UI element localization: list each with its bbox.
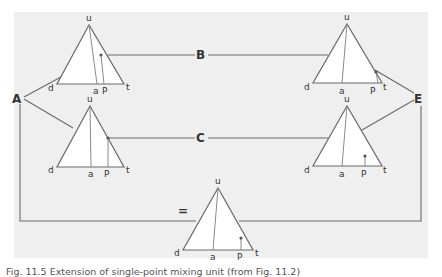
- mixing-unit-diagram: u d t a P u d t a P u d t a P u d t: [0, 0, 442, 277]
- node-E: E: [414, 92, 422, 106]
- label-a: a: [210, 252, 216, 262]
- label-u: u: [86, 13, 92, 23]
- label-a: a: [88, 169, 94, 179]
- label-t: t: [255, 248, 259, 258]
- label-t: t: [383, 165, 387, 175]
- point-p-dot: [239, 236, 242, 239]
- label-t: t: [126, 82, 130, 92]
- figure-caption: Fig. 11.5 Extension of single-point mixi…: [6, 266, 300, 277]
- label-u: u: [215, 176, 221, 186]
- label-d: d: [304, 165, 310, 175]
- label-p: P: [361, 169, 367, 179]
- label-u: u: [344, 94, 350, 104]
- point-p-dot: [99, 53, 102, 56]
- label-a: a: [93, 86, 99, 96]
- label-u: u: [344, 12, 350, 22]
- node-A: A: [12, 92, 22, 106]
- label-p: P: [102, 86, 108, 96]
- label-a: a: [339, 169, 345, 179]
- label-t: t: [383, 82, 387, 92]
- point-p-dot: [106, 136, 109, 139]
- point-p-dot: [363, 154, 366, 157]
- point-p-dot: [374, 70, 377, 73]
- label-d: d: [304, 82, 310, 92]
- label-p: P: [237, 252, 243, 262]
- equals-symbol: =: [178, 204, 188, 218]
- label-d: d: [48, 83, 54, 93]
- label-d: d: [174, 248, 180, 258]
- label-t: t: [126, 165, 130, 175]
- label-d: d: [48, 165, 54, 175]
- label-p: P: [104, 169, 110, 179]
- label-p: P: [370, 86, 376, 96]
- node-C: C: [196, 131, 205, 145]
- node-B: B: [196, 48, 205, 62]
- label-u: u: [87, 94, 93, 104]
